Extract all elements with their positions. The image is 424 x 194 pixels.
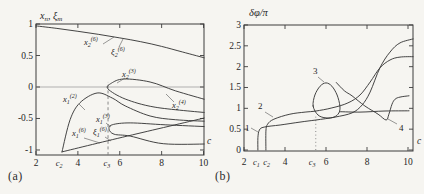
plot-b-curves — [258, 39, 414, 150]
figure-two-panel-plot: 24681010.50-0.5-1c2c3cxn, ξmx2(6)ξ2(6)x2… — [0, 0, 424, 194]
xtick-label: 8 — [365, 157, 370, 167]
ytick-label: 0.5 — [229, 124, 241, 134]
series-x2-6-xi2-6-upper-branch — [36, 26, 208, 59]
special-xtick-label: c2 — [263, 157, 270, 168]
ytick-label: 0.5 — [21, 51, 33, 61]
ytick-label: -1 — [25, 145, 33, 155]
curve-label: x2(4) — [171, 99, 186, 111]
panel-b-caption: (b) — [215, 169, 231, 184]
curve-label: ξ1(6) — [93, 126, 107, 138]
annotation-pointer-line — [265, 112, 273, 117]
curve-label: 4 — [399, 123, 404, 133]
series-curve-3-loop — [313, 83, 340, 118]
plot-b-frame — [244, 25, 413, 151]
curve-label: x2(3) — [121, 68, 136, 80]
ytick-label: 1 — [236, 103, 241, 113]
series-x2-3-x2-4-folded-branch — [107, 79, 208, 113]
ytick-label: 0 — [236, 145, 241, 155]
xtick-label: 6 — [324, 157, 329, 167]
curve-label: x2(6) — [83, 36, 98, 48]
plots-canvas: 24681010.50-0.5-1c2c3cxn, ξmx2(6)ξ2(6)x2… — [0, 0, 424, 194]
annotation-pointer-line — [318, 77, 324, 82]
panel-a-caption: (a) — [8, 169, 23, 184]
curve-label: x1(6) — [71, 127, 86, 139]
annotation-pointer-line — [84, 138, 100, 143]
ytick-label: 1 — [28, 19, 33, 29]
xtick-label: 2 — [242, 157, 247, 167]
curve-label: x1(2) — [62, 93, 77, 105]
y-axis-title: xn, ξm — [39, 10, 62, 23]
annotation-pointer-line — [103, 37, 114, 44]
ytick-label: 2.5 — [229, 41, 241, 51]
xtick-label: 10 — [199, 158, 209, 168]
series-x1-6-xi1-6-diagonal-branch — [62, 117, 208, 152]
ytick-label: 1.5 — [229, 82, 241, 92]
ytick-label: 2 — [236, 62, 241, 72]
xtick-label: 2 — [34, 158, 39, 168]
xtick-label: 4 — [283, 157, 288, 167]
xtick-label: 10 — [403, 157, 413, 167]
curve-label: 1 — [245, 123, 250, 133]
annotation-pointer-line — [79, 104, 85, 110]
plot-b: 24681032.521.510.50c1c2c3cδφ/π1234 — [229, 7, 422, 168]
annotation-pointer-line — [251, 128, 258, 132]
xtick-label: 6 — [117, 158, 122, 168]
curve-label: 3 — [313, 66, 318, 76]
curve-label: ξ2(6) — [111, 46, 125, 58]
series-curve-1 — [258, 39, 414, 150]
curve-label: x1(3) — [95, 113, 110, 125]
plot-a-curves — [36, 26, 208, 152]
special-xtick-label: c3 — [103, 158, 110, 169]
xtick-label: 8 — [159, 158, 164, 168]
special-xtick-label: c1 — [253, 157, 260, 168]
annotation-pointer-line — [106, 123, 111, 127]
annotation-pointer-line — [388, 119, 397, 124]
x-axis-title: c — [417, 136, 422, 146]
series-x1-3-x1-4-folded-branch — [109, 123, 208, 144]
x-axis-title: c — [207, 136, 212, 146]
ytick-label: 3 — [236, 20, 241, 30]
special-xtick-label: c2 — [56, 158, 63, 169]
curve-label: 2 — [258, 101, 263, 111]
ytick-label: -0.5 — [18, 113, 33, 123]
plot-b-ticks — [244, 25, 413, 151]
ytick-label: 0 — [28, 82, 33, 92]
y-axis-title: δφ/π — [249, 7, 269, 18]
plot-a: 24681010.50-0.5-1c2c3cxn, ξmx2(6)ξ2(6)x2… — [18, 10, 212, 169]
special-xtick-label: c3 — [309, 157, 316, 168]
xtick-label: 4 — [76, 158, 81, 168]
